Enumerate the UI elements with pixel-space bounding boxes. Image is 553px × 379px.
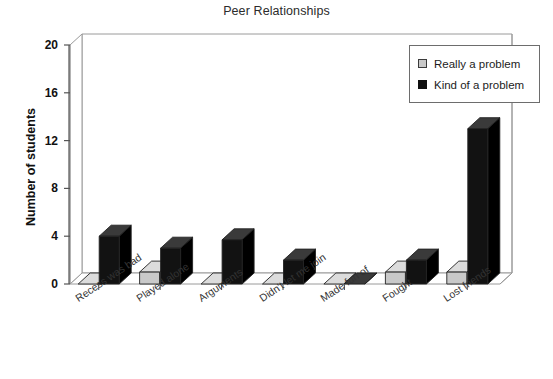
legend-label-kind-of-a-problem: Kind of a problem xyxy=(434,79,524,91)
left-wall xyxy=(70,34,82,284)
really-a-problem-swatch xyxy=(418,59,427,68)
legend-item-kind-of-a-problem: Kind of a problem xyxy=(418,74,530,95)
bar-kind-of-a-problem-front xyxy=(468,129,488,284)
chart-legend: Really a problem Kind of a problem xyxy=(409,45,540,103)
chart-container: Peer Relationships Number of students 04… xyxy=(0,0,553,379)
legend-label-really-a-problem: Really a problem xyxy=(434,58,520,70)
legend-item-really-a-problem: Really a problem xyxy=(418,53,530,74)
kind-of-a-problem-swatch xyxy=(418,80,427,89)
bar-kind-of-a-problem-side xyxy=(488,118,500,284)
